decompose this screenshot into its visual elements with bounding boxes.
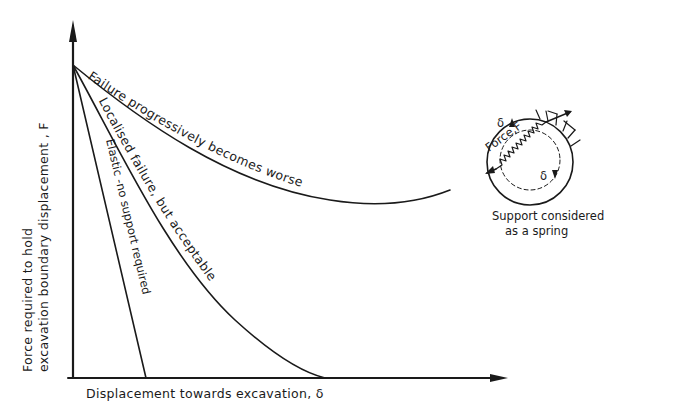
delta-top-label: δ bbox=[497, 116, 504, 130]
y-axis-label: Force required to hold excavation bounda… bbox=[20, 122, 51, 372]
x-axis bbox=[68, 374, 508, 382]
inset-caption-line2: as a spring bbox=[505, 224, 568, 238]
curve-progressive bbox=[73, 65, 450, 204]
x-axis-arrow-icon bbox=[490, 374, 508, 382]
delta-bottom-arrow-icon bbox=[552, 170, 558, 179]
inset-caption-line1: Support considered bbox=[492, 209, 604, 223]
ground-hatching-icon bbox=[536, 110, 580, 146]
y-axis-label-line1: Force required to hold bbox=[20, 228, 35, 372]
y-axis-arrow-icon bbox=[69, 20, 77, 42]
delta-bottom-label: δ bbox=[540, 169, 547, 183]
y-axis-label-line2: excavation boundary displacement , F bbox=[36, 122, 51, 372]
ground-reaction-diagram: Failure progressively becomes worse Loca… bbox=[0, 0, 685, 407]
label-elastic: Elastic -no support required bbox=[103, 137, 154, 295]
x-axis-label: Displacement towards excavation, δ bbox=[86, 386, 324, 401]
force-arrow-left-icon bbox=[485, 166, 495, 174]
inset-spring-diagram: Force,F δ δ Support considered as a spri… bbox=[483, 110, 605, 238]
